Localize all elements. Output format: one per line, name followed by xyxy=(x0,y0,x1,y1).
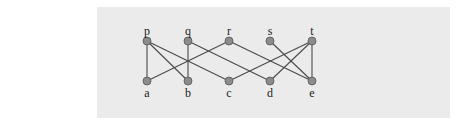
node-q xyxy=(184,37,192,45)
node-label-t: t xyxy=(310,24,314,38)
node-b xyxy=(184,77,192,85)
node-label-s: s xyxy=(268,24,273,38)
node-s xyxy=(266,37,274,45)
node-label-c: c xyxy=(226,86,231,100)
edge-p-b xyxy=(147,41,188,81)
node-a xyxy=(143,77,151,85)
node-t xyxy=(308,37,316,45)
node-label-p: p xyxy=(144,24,150,38)
node-label-q: q xyxy=(185,24,191,38)
node-label-d: d xyxy=(267,86,273,100)
node-p xyxy=(143,37,151,45)
bipartite-graph: pqrstabcde xyxy=(0,0,466,127)
node-label-e: e xyxy=(309,86,314,100)
node-e xyxy=(308,77,316,85)
node-label-b: b xyxy=(185,86,191,100)
node-r xyxy=(225,37,233,45)
node-d xyxy=(266,77,274,85)
node-label-a: a xyxy=(144,86,150,100)
edge-q-d xyxy=(188,41,270,81)
node-label-r: r xyxy=(227,24,231,38)
node-c xyxy=(225,77,233,85)
